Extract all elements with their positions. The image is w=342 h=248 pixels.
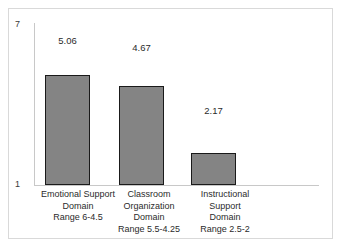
bar-value-label: 2.17 bbox=[191, 105, 236, 116]
category-label-line: Instructional bbox=[177, 189, 273, 201]
x-axis-line bbox=[34, 185, 319, 186]
y-axis-tick-max: 7 bbox=[15, 19, 31, 29]
bar-emotional-support[interactable] bbox=[45, 75, 90, 185]
chart-figure: 7 1 5.06 4.67 2.17 Emotional Support Dom… bbox=[8, 8, 333, 239]
bar-classroom-organization[interactable] bbox=[119, 86, 164, 185]
bar-value-label: 5.06 bbox=[45, 35, 90, 46]
category-label-line: Domain bbox=[177, 212, 273, 224]
y-axis-line bbox=[34, 23, 35, 186]
category-label-line: Support bbox=[177, 201, 273, 213]
y-axis-tick-min: 1 bbox=[15, 179, 31, 189]
bar-instructional-support[interactable] bbox=[191, 153, 236, 185]
category-label: Instructional Support Domain Range 2.5-2 bbox=[177, 189, 273, 235]
bar-value-label: 4.67 bbox=[119, 42, 164, 53]
bar-chart-plot-area: 7 1 5.06 4.67 2.17 Emotional Support Dom… bbox=[9, 9, 334, 240]
category-label-line: Range 2.5-2 bbox=[177, 224, 273, 236]
